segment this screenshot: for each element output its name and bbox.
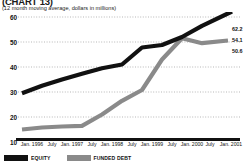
y-axis-tick-30: 30	[3, 89, 17, 96]
legend-label-funded-debt: FUNDED DEBT	[94, 155, 132, 161]
legend-label-equity: EQUITY	[31, 155, 51, 161]
plot-area: 60 50 40 30 20 10 62.2 54.1 50.6	[0, 12, 246, 142]
x-axis-tick-7: July	[167, 141, 176, 148]
series-line-equity	[22, 12, 232, 93]
x-axis-tick-4: Jan. 1998	[101, 141, 123, 148]
chart-container: (CHART 13) (12 month moving average, dol…	[0, 0, 246, 166]
legend-swatch-equity	[4, 155, 28, 161]
end-label-middle: 54.1	[232, 37, 243, 43]
x-axis-tick-6: Jan. 1999	[141, 141, 163, 148]
y-axis-tick-50: 50	[3, 39, 17, 46]
x-axis-tick-1: July	[47, 141, 56, 148]
chart-plot-svg	[0, 12, 246, 142]
x-axis-labels: Jan. 1996 July Jan. 1997 July Jan. 1998 …	[0, 141, 246, 151]
x-axis-tick-9: July	[205, 141, 214, 148]
legend-item-funded-debt: FUNDED DEBT	[67, 155, 132, 161]
chart-subtitle: (12 month moving average, dollars in mil…	[2, 5, 116, 12]
x-axis-tick-2: Jan. 1997	[61, 141, 83, 148]
end-label-equity: 62.2	[232, 26, 243, 32]
x-axis-tick-3: July	[87, 141, 96, 148]
chart-legend: EQUITY FUNDED DEBT	[4, 152, 147, 164]
legend-swatch-funded-debt	[67, 155, 91, 161]
gridlines	[18, 17, 240, 117]
end-label-funded-debt: 50.6	[232, 48, 243, 54]
legend-item-equity: EQUITY	[4, 155, 51, 161]
x-axis-tick-8: Jan. 2000	[181, 141, 203, 148]
y-axis-tick-40: 40	[3, 64, 17, 71]
x-axis-tick-10: Jan. 2001	[220, 141, 242, 148]
y-axis-tick-60: 60	[3, 14, 17, 21]
x-axis-tick-5: July	[127, 141, 136, 148]
x-axis-tick-0: Jan. 1996	[21, 141, 43, 148]
y-axis-tick-20: 20	[3, 114, 17, 121]
